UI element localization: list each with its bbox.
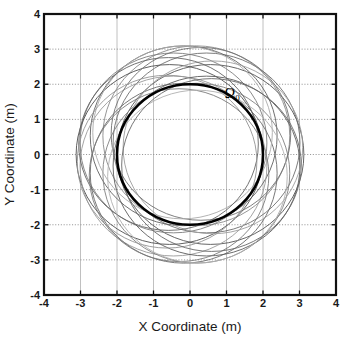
- chart-figure: -4-3-2-10123443210-1-2-3-4X Coordinate (…: [0, 0, 348, 337]
- x-tick-label: 0: [187, 297, 193, 309]
- x-tick-label: 2: [260, 297, 266, 309]
- y-axis-label: Y Coordinate (m): [2, 103, 17, 206]
- y-tick-label: -3: [30, 254, 40, 266]
- y-tick-label: -1: [30, 184, 40, 196]
- y-tick-label: 0: [34, 149, 40, 161]
- y-tick-label: -2: [30, 219, 40, 231]
- y-tick-label: 3: [34, 43, 40, 55]
- y-tick-label: 1: [34, 113, 40, 125]
- orbit-plot-svg: -4-3-2-10123443210-1-2-3-4X Coordinate (…: [0, 0, 348, 337]
- x-tick-label: 4: [333, 297, 340, 309]
- y-tick-label: -4: [30, 289, 41, 301]
- y-tick-label: 2: [34, 78, 40, 90]
- x-tick-label: 1: [223, 297, 229, 309]
- omega-symbol: Ω: [225, 86, 235, 101]
- x-tick-label: -1: [149, 297, 159, 309]
- x-tick-label: -3: [76, 297, 86, 309]
- x-tick-label: 3: [296, 297, 302, 309]
- x-axis-label: X Coordinate (m): [139, 319, 242, 334]
- x-tick-label: -2: [112, 297, 122, 309]
- y-tick-label: 4: [34, 8, 41, 20]
- x-tick-label: -4: [39, 297, 50, 309]
- omega-subscript: 0: [235, 93, 240, 103]
